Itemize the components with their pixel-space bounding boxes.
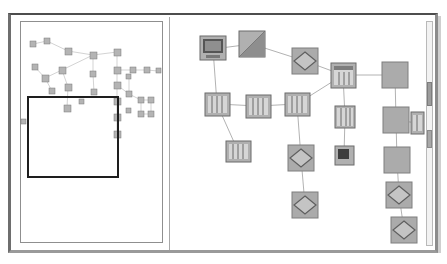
minimap-graph bbox=[21, 22, 164, 244]
overview-panel[interactable] bbox=[14, 17, 170, 250]
node-switch-n11[interactable] bbox=[288, 145, 314, 171]
node-plain-n15[interactable] bbox=[384, 147, 410, 173]
scrollbar-thumb-2[interactable] bbox=[427, 130, 432, 148]
main-window-frame bbox=[8, 13, 438, 253]
minimap-nodes bbox=[21, 38, 161, 138]
overview-canvas[interactable] bbox=[20, 21, 163, 243]
node-switch-n16[interactable] bbox=[386, 182, 412, 208]
node-device-n8[interactable] bbox=[335, 106, 355, 128]
detail-canvas[interactable] bbox=[173, 20, 423, 246]
node-device-n18[interactable] bbox=[411, 112, 424, 134]
node-workstation-n1[interactable] bbox=[200, 36, 226, 60]
topology-graph bbox=[173, 20, 423, 246]
detail-panel[interactable] bbox=[171, 17, 435, 250]
network-map-application bbox=[0, 0, 447, 264]
node-plain-n14[interactable] bbox=[383, 107, 409, 133]
detail-vertical-scrollbar[interactable] bbox=[426, 21, 433, 246]
node-plain-n13[interactable] bbox=[382, 62, 408, 88]
node-switch-n12[interactable] bbox=[292, 192, 318, 218]
node-server-n10[interactable] bbox=[226, 141, 251, 162]
node-server-n6[interactable] bbox=[285, 93, 310, 116]
window-shadow-right bbox=[438, 16, 441, 253]
node-switch-n17[interactable] bbox=[391, 217, 417, 243]
node-server-n5[interactable] bbox=[246, 95, 271, 118]
scrollbar-thumb[interactable] bbox=[427, 82, 432, 106]
node-router-n2[interactable] bbox=[239, 31, 265, 57]
node-server-n4[interactable] bbox=[205, 93, 230, 116]
node-switch-n3[interactable] bbox=[292, 48, 318, 74]
node-device-n7[interactable] bbox=[331, 63, 356, 88]
node-device-n9[interactable] bbox=[335, 146, 354, 165]
